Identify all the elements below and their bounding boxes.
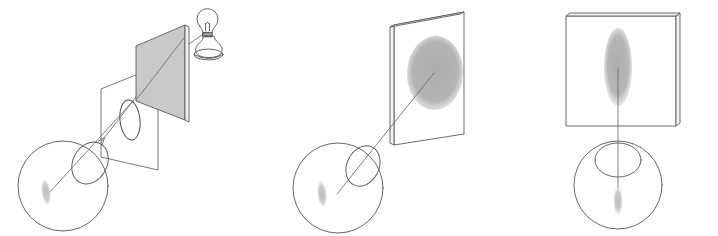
cornea: [339, 140, 386, 192]
lamp-group: [194, 9, 223, 60]
lamp-socket: [196, 37, 222, 58]
eyeball: [293, 143, 383, 233]
occluder-plate-face: [136, 25, 185, 120]
figure-root: [0, 0, 718, 236]
eyeball: [18, 141, 108, 231]
panel-lamp-aperture-eye: [0, 0, 272, 236]
screen-plate-group: [390, 12, 465, 145]
occluder-plate-edge: [185, 25, 189, 122]
panel-oblique-screen-eye: [272, 0, 532, 236]
screen-frame-right-edge: [676, 13, 680, 126]
occluder-plate-group: [136, 25, 189, 122]
panel-frontal-screen-eye: [532, 0, 718, 236]
retinal-image: [39, 177, 52, 206]
screen-frame-top-edge: [566, 13, 680, 16]
chief-ray-arrow-segment: [101, 101, 133, 142]
light-bulb-glass: [197, 9, 218, 33]
retinal-image: [613, 186, 623, 216]
screen-frame-group: [566, 13, 680, 126]
chief-ray-into-eye: [49, 101, 133, 193]
retinal-image: [316, 180, 329, 209]
eye-group: [293, 140, 387, 233]
light-bulb-filament: [206, 22, 210, 30]
